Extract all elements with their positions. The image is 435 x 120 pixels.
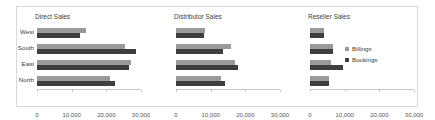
legend-swatch-icon bbox=[345, 58, 349, 62]
x-axis-tick-label: 0 bbox=[35, 112, 38, 118]
x-axis-tick bbox=[37, 90, 38, 92]
x-axis-tick bbox=[414, 90, 415, 92]
x-axis-tick-label: 10,000 bbox=[201, 112, 219, 118]
category-group bbox=[176, 58, 280, 74]
legend-label: Billings bbox=[352, 45, 372, 52]
x-axis-tick-label: 30,000 bbox=[405, 112, 423, 118]
x-axis-tick bbox=[379, 90, 380, 92]
bar-bookings bbox=[310, 81, 329, 86]
category-label: South bbox=[18, 44, 34, 51]
category-group bbox=[176, 26, 280, 42]
bar-bookings bbox=[37, 65, 129, 70]
x-axis-tick bbox=[280, 90, 281, 92]
x-axis-tick-label: 20,000 bbox=[236, 112, 254, 118]
legend-item[interactable]: Billings bbox=[345, 43, 401, 54]
plot-area: 010,00020,00030,000WestSouthEastNorth bbox=[37, 26, 141, 90]
panel-title: Distributor Sales bbox=[174, 13, 222, 20]
category-label: North bbox=[19, 76, 34, 83]
category-group: North bbox=[37, 74, 141, 90]
x-axis-tick-label: 20,000 bbox=[97, 112, 115, 118]
category-group bbox=[176, 42, 280, 58]
chart-frame: Direct Sales010,00020,00030,000WestSouth… bbox=[16, 6, 418, 107]
x-axis-tick bbox=[106, 90, 107, 92]
x-axis-tick-label: 30,000 bbox=[271, 112, 289, 118]
x-axis-tick-label: 20,000 bbox=[370, 112, 388, 118]
bar-bookings bbox=[37, 49, 136, 54]
bar-bookings bbox=[37, 81, 115, 86]
category-group: South bbox=[37, 42, 141, 58]
chart-legend: BillingsBookings bbox=[345, 43, 401, 65]
legend-swatch-icon bbox=[345, 47, 349, 51]
x-axis-tick bbox=[176, 90, 177, 92]
x-axis-tick bbox=[211, 90, 212, 92]
category-group bbox=[310, 26, 414, 42]
panel-title: Reseller Sales bbox=[308, 13, 350, 20]
legend-label: Bookings bbox=[352, 56, 377, 63]
panel-title: Direct Sales bbox=[35, 13, 70, 20]
x-axis-tick bbox=[141, 90, 142, 92]
x-axis-tick-label: 10,000 bbox=[335, 112, 353, 118]
bar-bookings bbox=[310, 65, 343, 70]
x-axis-tick-label: 30,000 bbox=[132, 112, 150, 118]
x-axis-tick-label: 0 bbox=[174, 112, 177, 118]
category-label: East bbox=[22, 60, 34, 67]
bar-bookings bbox=[176, 81, 225, 86]
bar-bookings bbox=[37, 33, 80, 38]
x-axis-tick bbox=[345, 90, 346, 92]
plot-area: 010,00020,00030,000 bbox=[176, 26, 280, 90]
x-axis-tick bbox=[310, 90, 311, 92]
category-group: West bbox=[37, 26, 141, 42]
category-label: West bbox=[20, 28, 34, 35]
x-axis-tick-label: 10,000 bbox=[62, 112, 80, 118]
category-group bbox=[176, 74, 280, 90]
category-group: East bbox=[37, 58, 141, 74]
bar-bookings bbox=[310, 49, 333, 54]
bar-bookings bbox=[176, 65, 238, 70]
x-axis-tick bbox=[72, 90, 73, 92]
chart-panel: Direct Sales010,00020,00030,000WestSouth… bbox=[17, 7, 151, 106]
chart-panel: Distributor Sales010,00020,00030,000 bbox=[151, 7, 285, 106]
category-group bbox=[310, 74, 414, 90]
legend-item[interactable]: Bookings bbox=[345, 54, 401, 65]
bar-bookings bbox=[310, 33, 324, 38]
x-axis-tick bbox=[245, 90, 246, 92]
bar-bookings bbox=[176, 33, 204, 38]
bar-bookings bbox=[176, 49, 223, 54]
x-axis-tick-label: 0 bbox=[308, 112, 311, 118]
